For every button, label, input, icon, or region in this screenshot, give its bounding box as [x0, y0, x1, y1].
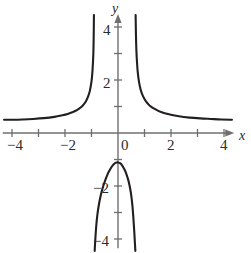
y-tick-label-neg2: −2 — [93, 181, 109, 196]
y-axis-name: y — [112, 2, 118, 16]
x-tick-label-4: 4 — [220, 138, 228, 153]
x-axis-name: x — [239, 129, 245, 143]
y-tick-label-2: 2 — [103, 76, 111, 91]
y-tick-label-neg4: −4 — [93, 234, 109, 249]
plot-canvas — [0, 0, 251, 253]
y-tick-label-4: 4 — [103, 23, 111, 38]
x-tick-label-neg4: −4 — [7, 138, 23, 153]
x-tick-label-neg2: −2 — [60, 138, 76, 153]
x-tick-label-0: 0 — [121, 138, 129, 153]
x-axis-arrowhead — [225, 129, 234, 136]
curve-left-upper-branch — [4, 15, 94, 120]
x-tick-label-2: 2 — [167, 138, 175, 153]
curve-right-upper-branch — [136, 15, 232, 120]
graph-figure: −4 −2 0 2 4 4 2 −2 −4 x y — [0, 0, 251, 253]
